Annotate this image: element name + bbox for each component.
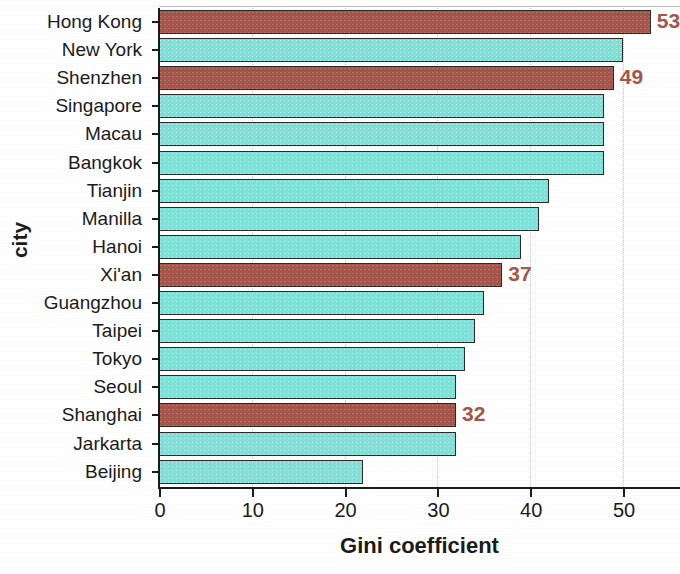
category-label: Hong Kong [47,8,142,36]
category-label-column: Hong KongNew YorkShenzhenSingaporeMacauB… [0,8,152,487]
category-label: Seoul [93,373,142,401]
y-axis-tick [152,274,159,276]
y-axis-tick [152,190,159,192]
bar-row[interactable] [159,458,680,486]
bar[interactable] [159,403,456,427]
bar[interactable] [159,207,539,231]
bar-value-label: 49 [620,63,643,91]
x-axis-tick-label: 40 [511,499,551,522]
bar-row[interactable] [159,261,680,289]
bar[interactable] [159,347,465,371]
category-label: Tokyo [92,345,142,373]
bar[interactable] [159,10,651,34]
category-label: Taipei [92,317,142,345]
y-axis-tick [152,105,159,107]
bar-row[interactable] [159,149,680,177]
y-axis-tick [152,162,159,164]
y-axis-tick [152,218,159,220]
y-axis-tick [152,443,159,445]
bar[interactable] [159,460,363,484]
y-axis-tick [152,133,159,135]
category-label: Beijing [85,458,142,486]
x-axis-tick-label: 30 [418,499,458,522]
x-axis-tick-label: 50 [604,499,644,522]
y-axis-line [158,8,160,489]
category-label: Tianjin [87,177,142,205]
bar-value-label: 37 [508,260,531,288]
bar-row[interactable] [159,373,680,401]
bar[interactable] [159,94,604,118]
bar[interactable] [159,375,456,399]
x-axis-tick-label: 0 [140,499,180,522]
bar[interactable] [159,291,484,315]
x-axis-tick [345,489,347,497]
plot-area [159,8,680,487]
bar[interactable] [159,66,614,90]
plot-top-hairline [159,6,680,7]
gini-coefficient-bar-chart: city Hong KongNew YorkShenzhenSingaporeM… [0,0,680,574]
bar-row[interactable] [159,205,680,233]
x-axis-tick-label: 10 [233,499,273,522]
x-axis-tick [530,489,532,497]
bar-row[interactable] [159,92,680,120]
x-axis-tick [159,489,161,497]
bar-row[interactable] [159,8,680,36]
bar-row[interactable] [159,177,680,205]
x-axis-tick [623,489,625,497]
y-axis-tick [152,386,159,388]
y-axis-tick [152,49,159,51]
category-label: Shanghai [62,401,142,429]
category-label: Manilla [82,205,142,233]
x-axis-tick-label: 20 [326,499,366,522]
x-axis-tick [437,489,439,497]
bar[interactable] [159,263,502,287]
category-label: Guangzhou [44,289,142,317]
bar-row[interactable] [159,36,680,64]
y-axis-tick [152,471,159,473]
x-axis-tick [252,489,254,497]
category-label: Xi'an [100,261,142,289]
bar-value-label: 32 [462,400,485,428]
category-label: Jarkarta [73,430,142,458]
bar-value-label: 53 [657,7,680,35]
bar-row[interactable] [159,401,680,429]
bar-row[interactable] [159,233,680,261]
bar[interactable] [159,432,456,456]
bar-row[interactable] [159,317,680,345]
bar[interactable] [159,122,604,146]
y-axis-tick [152,302,159,304]
category-label: Hanoi [92,233,142,261]
bar-row[interactable] [159,289,680,317]
y-axis-tick [152,330,159,332]
y-axis-tick [152,77,159,79]
bar-row[interactable] [159,120,680,148]
bar-row[interactable] [159,64,680,92]
bar[interactable] [159,319,475,343]
y-axis-tick [152,358,159,360]
x-axis-line [158,487,680,489]
y-axis-tick [152,246,159,248]
y-axis-tick [152,21,159,23]
bar[interactable] [159,38,623,62]
bar-row[interactable] [159,430,680,458]
category-label: Shenzhen [56,64,142,92]
x-axis-title: Gini coefficient [159,533,680,559]
bar[interactable] [159,235,521,259]
bar[interactable] [159,151,604,175]
category-label: Bangkok [68,149,142,177]
category-label: Singapore [55,92,142,120]
bar-row[interactable] [159,345,680,373]
y-axis-tick [152,414,159,416]
bar[interactable] [159,179,549,203]
category-label: Macau [85,120,142,148]
category-label: New York [62,36,142,64]
